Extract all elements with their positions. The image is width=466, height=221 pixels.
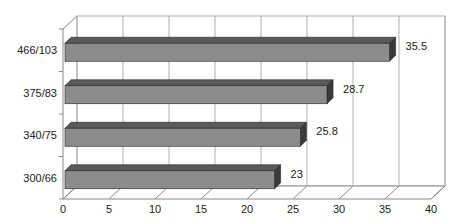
x-tick-label: 40	[425, 203, 437, 215]
bar-top	[65, 165, 281, 171]
bar	[65, 37, 396, 61]
category-label: 300/66	[23, 172, 57, 184]
bar-top	[65, 122, 306, 128]
category-axis-labels: 300/66340/75375/83466/103	[17, 44, 57, 184]
category-label: 466/103	[17, 44, 57, 56]
x-tick-label: 35	[379, 203, 391, 215]
x-tick-label: 25	[287, 203, 299, 215]
bar-top	[65, 80, 333, 86]
left-wall-top-edge	[63, 16, 77, 29]
bar-top	[65, 37, 396, 43]
x-tick-label: 30	[333, 203, 345, 215]
bar-face	[65, 86, 327, 104]
bar	[65, 165, 281, 189]
x-tick-label: 15	[195, 203, 207, 215]
data-label: 35.5	[406, 40, 427, 52]
x-tick-label: 0	[60, 203, 66, 215]
x-tick-label: 5	[106, 203, 112, 215]
data-label: 28.7	[343, 83, 364, 95]
value-axis-labels: 0510152025303540	[60, 203, 437, 215]
data-label: 25.8	[316, 125, 337, 137]
category-label: 340/75	[23, 129, 57, 141]
data-label: 23	[291, 168, 303, 180]
x-tick-label: 10	[149, 203, 161, 215]
bar-face	[65, 128, 300, 146]
bar	[65, 122, 306, 146]
bar-face	[65, 171, 275, 189]
chart-canvas: 300/66340/75375/83466/103 05101520253035…	[0, 0, 466, 221]
x-tick-label: 20	[241, 203, 253, 215]
category-label: 375/83	[23, 87, 57, 99]
bar	[65, 80, 333, 104]
bar-face	[65, 43, 390, 61]
bar-chart: 300/66340/75375/83466/103 05101520253035…	[0, 0, 466, 221]
